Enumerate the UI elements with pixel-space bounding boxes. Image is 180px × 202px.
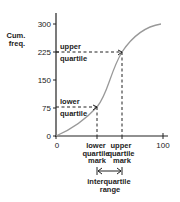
y-tick-0: 0 — [47, 132, 52, 141]
quartile-guides — [56, 52, 122, 136]
cumulative-frequency-curve — [56, 24, 161, 136]
x-tick-0: 0 — [55, 141, 60, 150]
x-tick-100: 100 — [156, 141, 170, 150]
y-axis-label: Cum. freq. — [7, 31, 28, 48]
upper-quartile-mark-label: upper quartile mark — [107, 141, 136, 165]
y-tick-300: 300 — [38, 20, 52, 29]
interquartile-range-arrow — [97, 167, 122, 175]
y-tick-225: 225 — [38, 48, 52, 57]
y-tick-75: 75 — [42, 104, 51, 113]
y-tick-150: 150 — [38, 76, 52, 85]
cumulative-frequency-chart: 300 225 150 75 0 0 100 Cum. freq. upper … — [0, 0, 180, 202]
interquartile-range-label: interquartile range — [87, 177, 132, 194]
